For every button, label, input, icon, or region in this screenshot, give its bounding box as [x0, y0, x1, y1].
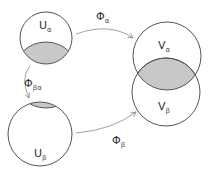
label-phi-beta: Φβ [112, 134, 125, 149]
chart-diagram: Uα Uβ Vα Vβ Φα Φβα Φβ [0, 0, 209, 171]
node-u-alpha: Uα [13, 12, 79, 108]
label-v-alpha: Vα [158, 39, 171, 54]
overlap-region-u-alpha [13, 42, 79, 108]
label-phi-alpha: Φα [96, 10, 110, 25]
edge-phi-beta-alpha: Φβα [24, 66, 42, 98]
label-v-beta: Vβ [158, 100, 170, 115]
edge-phi-alpha: Φα [76, 10, 133, 38]
label-u-alpha: Uα [39, 19, 52, 34]
arrow-phi-beta [76, 112, 136, 133]
edge-phi-beta: Φβ [76, 112, 136, 149]
arrow-phi-alpha [76, 29, 133, 38]
label-phi-beta-alpha: Φβα [24, 77, 42, 92]
label-u-beta: Uβ [34, 147, 47, 162]
